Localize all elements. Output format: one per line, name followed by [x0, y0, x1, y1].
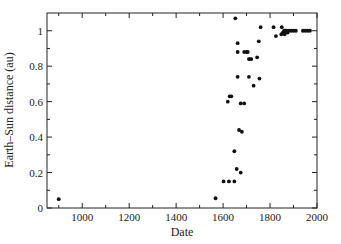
x-axis-label: Date [171, 225, 194, 239]
data-point [236, 75, 240, 79]
data-point [258, 77, 262, 81]
data-point [274, 34, 278, 38]
data-point [259, 25, 263, 29]
data-points [57, 16, 312, 201]
data-point [246, 50, 250, 54]
data-point [252, 84, 256, 88]
y-tick-label: 0.2 [29, 167, 43, 179]
data-point [294, 29, 298, 33]
y-tick-label: 0.4 [29, 131, 43, 143]
data-point [239, 102, 243, 106]
x-tick-label: 1200 [118, 211, 141, 223]
data-point [257, 39, 261, 43]
data-point [272, 25, 276, 29]
data-point [57, 197, 61, 201]
y-axis-label: Earth–Sun distance (au) [2, 52, 16, 167]
y-tick-label: 0 [38, 202, 44, 214]
x-tick-label: 2000 [306, 211, 329, 223]
data-point [232, 180, 236, 184]
data-point [235, 167, 239, 171]
x-tick-label: 1800 [259, 211, 282, 223]
x-tick-label: 1400 [165, 211, 188, 223]
data-point [242, 102, 246, 106]
data-point [233, 16, 237, 20]
data-point [226, 100, 230, 104]
plot-frame [47, 13, 317, 208]
y-tick-label: 0.6 [29, 96, 43, 108]
data-point [222, 180, 226, 184]
data-point [255, 55, 259, 59]
data-point [247, 75, 251, 79]
data-point [249, 57, 253, 61]
scatter-chart: 10001200140016001800200000.20.40.60.81 D… [0, 0, 341, 244]
data-point [227, 180, 231, 184]
data-point [308, 29, 312, 33]
data-point [280, 25, 284, 29]
data-point [236, 50, 240, 54]
data-point [236, 41, 240, 45]
data-point [232, 149, 236, 153]
data-point [240, 130, 244, 134]
data-point [214, 196, 218, 200]
y-tick-label: 1 [38, 25, 44, 37]
x-tick-label: 1000 [71, 211, 94, 223]
data-point [229, 94, 233, 98]
y-tick-label: 0.8 [29, 60, 43, 72]
data-point [239, 171, 243, 175]
plot-area: 10001200140016001800200000.20.40.60.81 [29, 13, 328, 223]
x-tick-label: 1600 [212, 211, 235, 223]
